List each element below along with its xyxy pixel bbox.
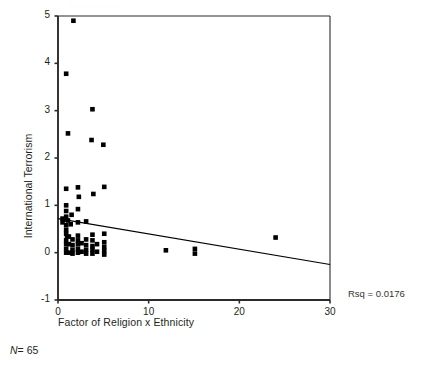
data-point (84, 237, 89, 242)
data-point (67, 234, 72, 239)
data-point (66, 131, 71, 136)
data-point (95, 249, 100, 254)
y-tick-label: 2 (32, 151, 50, 162)
sample-size-symbol: N (10, 344, 18, 356)
data-point (76, 233, 81, 238)
data-point (164, 248, 169, 253)
data-point (273, 235, 278, 240)
x-tick-label: 10 (138, 306, 160, 317)
y-axis-title: International Terrorism (22, 111, 34, 261)
data-point (84, 219, 89, 224)
data-point (90, 238, 95, 243)
data-point (84, 251, 89, 256)
data-point (67, 242, 72, 247)
data-point (193, 251, 198, 256)
data-point (79, 249, 84, 254)
rsq-annotation: Rsq = 0.0176 (348, 288, 405, 299)
data-point (91, 192, 96, 197)
y-tick-label: 5 (32, 9, 50, 20)
data-point (64, 71, 69, 76)
data-point (68, 222, 73, 227)
data-point (101, 142, 106, 147)
data-point (102, 185, 107, 190)
data-point (76, 207, 81, 212)
y-tick-label: 1 (32, 198, 50, 209)
y-tick-label: 0 (32, 246, 50, 257)
data-point (77, 195, 82, 200)
x-axis-title: Factor of Religion x Ethnicity (58, 316, 194, 328)
sample-size-value: = 65 (18, 344, 39, 356)
data-point (102, 240, 107, 245)
data-point (89, 138, 94, 143)
data-point (90, 232, 95, 237)
regression-line (58, 219, 330, 265)
scatter-plot-figure: ............ International Terrorism Fac… (0, 0, 428, 370)
data-point (64, 203, 69, 208)
data-point (71, 18, 76, 23)
data-point (64, 209, 69, 214)
data-point (193, 247, 198, 252)
data-point (60, 216, 65, 221)
data-point (76, 185, 81, 190)
data-point (102, 231, 107, 236)
data-point (102, 252, 107, 257)
y-tick-label: 3 (32, 104, 50, 115)
data-point (90, 251, 95, 256)
y-tick-label: -1 (32, 293, 50, 304)
data-point (69, 213, 74, 218)
data-point (90, 107, 95, 112)
data-point (84, 243, 89, 248)
data-point (64, 186, 69, 191)
data-point (79, 241, 84, 246)
data-point (76, 220, 81, 225)
x-tick-label: 0 (47, 306, 69, 317)
y-tick-label: 4 (32, 56, 50, 67)
data-point (67, 250, 72, 255)
sample-size-annotation: N= 65 (10, 344, 38, 356)
data-point (95, 242, 100, 247)
x-tick-label: 20 (228, 306, 250, 317)
x-tick-label: 30 (319, 306, 341, 317)
